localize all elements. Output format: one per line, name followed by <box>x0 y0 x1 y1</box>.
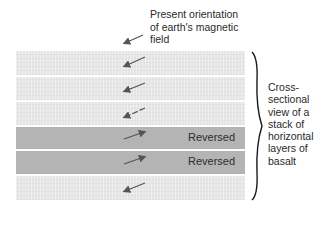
layer-5-arrow-icon <box>124 157 144 164</box>
caption-line: basalt <box>268 155 314 167</box>
layer-1-arrow-icon <box>125 57 145 66</box>
caption-line: Cross- <box>268 81 314 93</box>
curly-brace-icon <box>252 52 262 200</box>
layer-6-arrow-icon <box>125 183 145 191</box>
caption-line: sectional <box>268 93 314 105</box>
present-field-arrow-icon <box>125 35 143 43</box>
caption-line: view of a <box>268 106 314 118</box>
cross-section-caption: Cross- sectional view of a stack of hori… <box>268 81 314 167</box>
caption-line: horizontal <box>268 130 314 142</box>
caption-line: stack of <box>268 118 314 130</box>
caption-line: layers of <box>268 142 314 154</box>
layer-4-arrow-icon <box>124 132 144 139</box>
layer-2-arrow-icon <box>125 83 145 91</box>
layer-3-arrow-icon <box>125 108 145 117</box>
